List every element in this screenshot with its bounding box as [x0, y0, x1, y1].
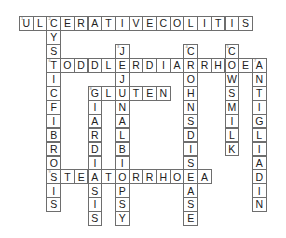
- grid-cell[interactable]: H: [211, 58, 226, 73]
- grid-cell[interactable]: A: [88, 16, 103, 31]
- grid-cell[interactable]: T: [252, 86, 267, 101]
- grid-cell[interactable]: A: [170, 58, 185, 73]
- grid-cell[interactable]: L: [252, 128, 267, 143]
- grid-cell[interactable]: R: [74, 16, 89, 31]
- grid-cell[interactable]: B: [46, 128, 61, 143]
- grid-cell[interactable]: S: [225, 86, 240, 101]
- grid-cell[interactable]: I: [156, 58, 171, 73]
- grid-cell[interactable]: E: [142, 16, 157, 31]
- grid-cell[interactable]: S: [88, 183, 103, 198]
- grid-cell[interactable]: I: [115, 16, 130, 31]
- grid-cell[interactable]: O: [170, 16, 185, 31]
- grid-cell[interactable]: F: [46, 100, 61, 115]
- grid-cell[interactable]: P: [115, 183, 130, 198]
- grid-cell[interactable]: T: [101, 16, 116, 31]
- grid-cell[interactable]: M: [225, 100, 240, 115]
- grid-cell[interactable]: D: [88, 58, 103, 73]
- grid-cell[interactable]: O: [225, 58, 240, 73]
- grid-cell[interactable]: N: [252, 72, 267, 87]
- grid-cell[interactable]: O: [60, 58, 75, 73]
- grid-cell[interactable]: S: [88, 211, 103, 226]
- grid-cell[interactable]: R: [129, 58, 144, 73]
- grid-cell[interactable]: J: [115, 72, 130, 87]
- grid-cell[interactable]: Y: [115, 211, 130, 226]
- grid-cell[interactable]: I: [197, 16, 212, 31]
- grid-cell[interactable]: L: [183, 16, 198, 31]
- grid-cell[interactable]: D: [74, 58, 89, 73]
- grid-cell[interactable]: T: [101, 169, 116, 184]
- grid-cell[interactable]: U1: [19, 16, 34, 31]
- grid-cell[interactable]: I: [252, 100, 267, 115]
- grid-cell[interactable]: L: [225, 128, 240, 143]
- grid-cell[interactable]: E: [115, 58, 130, 73]
- grid-cell[interactable]: Y: [46, 30, 61, 45]
- grid-cell[interactable]: C: [156, 16, 171, 31]
- grid-cell[interactable]: S9: [46, 169, 61, 184]
- grid-cell[interactable]: I: [225, 114, 240, 129]
- grid-cell[interactable]: I: [88, 100, 103, 115]
- grid-cell[interactable]: S: [183, 114, 198, 129]
- grid-cell[interactable]: N: [156, 86, 171, 101]
- grid-cell[interactable]: A: [183, 183, 198, 198]
- grid-cell[interactable]: S: [183, 156, 198, 171]
- grid-cell[interactable]: I: [225, 16, 240, 31]
- grid-cell[interactable]: R: [46, 142, 61, 157]
- grid-cell[interactable]: R: [197, 58, 212, 73]
- grid-cell[interactable]: L: [115, 128, 130, 143]
- grid-cell[interactable]: N: [115, 100, 130, 115]
- grid-cell[interactable]: I: [252, 183, 267, 198]
- grid-cell[interactable]: S: [183, 197, 198, 212]
- grid-cell[interactable]: C5: [225, 44, 240, 59]
- grid-cell[interactable]: A: [115, 114, 130, 129]
- grid-cell[interactable]: G: [252, 114, 267, 129]
- grid-cell[interactable]: C2: [46, 16, 61, 31]
- grid-cell[interactable]: V: [129, 16, 144, 31]
- grid-cell[interactable]: E: [238, 58, 253, 73]
- grid-cell[interactable]: A: [88, 169, 103, 184]
- grid-cell[interactable]: D: [88, 142, 103, 157]
- grid-cell[interactable]: I: [46, 183, 61, 198]
- grid-cell[interactable]: T: [60, 169, 75, 184]
- grid-cell[interactable]: E: [74, 169, 89, 184]
- grid-cell[interactable]: G8: [88, 86, 103, 101]
- grid-cell[interactable]: W: [225, 72, 240, 87]
- grid-cell[interactable]: L: [101, 58, 116, 73]
- grid-cell[interactable]: T: [129, 86, 144, 101]
- grid-cell[interactable]: A7: [252, 58, 267, 73]
- grid-cell[interactable]: C4: [183, 44, 198, 59]
- grid-cell[interactable]: O: [170, 169, 185, 184]
- grid-cell[interactable]: I: [88, 156, 103, 171]
- grid-cell[interactable]: H: [156, 169, 171, 184]
- grid-cell[interactable]: A: [88, 114, 103, 129]
- grid-cell[interactable]: E: [183, 211, 198, 226]
- grid-cell[interactable]: I: [183, 142, 198, 157]
- grid-cell[interactable]: R: [142, 169, 157, 184]
- grid-cell[interactable]: A: [252, 156, 267, 171]
- grid-cell[interactable]: I: [252, 142, 267, 157]
- grid-cell[interactable]: R: [88, 128, 103, 143]
- grid-cell[interactable]: I: [46, 72, 61, 87]
- grid-cell[interactable]: S: [46, 197, 61, 212]
- grid-cell[interactable]: C: [46, 86, 61, 101]
- grid-cell[interactable]: O: [46, 156, 61, 171]
- grid-cell[interactable]: R: [183, 58, 198, 73]
- grid-cell[interactable]: O: [115, 169, 130, 184]
- grid-cell[interactable]: T: [211, 16, 226, 31]
- grid-cell[interactable]: O: [183, 72, 198, 87]
- grid-cell[interactable]: I: [46, 114, 61, 129]
- grid-cell[interactable]: B: [115, 142, 130, 157]
- grid-cell[interactable]: D: [142, 58, 157, 73]
- grid-cell[interactable]: N: [252, 197, 267, 212]
- grid-cell[interactable]: S: [115, 197, 130, 212]
- grid-cell[interactable]: E: [142, 86, 157, 101]
- grid-cell[interactable]: E: [60, 16, 75, 31]
- grid-cell[interactable]: L: [101, 86, 116, 101]
- grid-cell[interactable]: R: [129, 169, 144, 184]
- grid-cell[interactable]: D: [252, 169, 267, 184]
- grid-cell[interactable]: K: [225, 142, 240, 157]
- grid-cell[interactable]: N: [183, 100, 198, 115]
- grid-cell[interactable]: A: [197, 169, 212, 184]
- grid-cell[interactable]: U: [115, 86, 130, 101]
- grid-cell[interactable]: H: [183, 86, 198, 101]
- grid-cell[interactable]: D: [183, 128, 198, 143]
